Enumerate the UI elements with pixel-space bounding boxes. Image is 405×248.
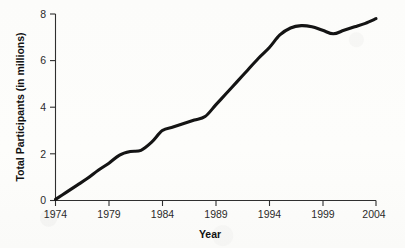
y-tick-label-8: 8: [40, 8, 46, 20]
y-axis-ticks: [50, 14, 56, 201]
x-axis-title: Year: [199, 228, 221, 240]
y-tick-label-0: 0: [40, 194, 46, 206]
x-tick-label-1979: 1979: [97, 208, 121, 220]
x-tick-label-1989: 1989: [204, 208, 228, 220]
y-tick-label-2: 2: [40, 148, 46, 160]
y-axis-tick-labels: 0 2 4 6 8: [40, 8, 46, 206]
x-tick-label-1999: 1999: [311, 208, 335, 220]
chart-page: 0 2 4 6 8 1974 1979 1984 1989 1994 1999 …: [0, 0, 405, 248]
x-axis-tick-labels: 1974 1979 1984 1989 1994 1999 2004: [44, 208, 386, 220]
x-tick-label-1984: 1984: [151, 208, 175, 220]
y-tick-label-4: 4: [40, 101, 46, 113]
x-tick-label-1994: 1994: [258, 208, 282, 220]
y-tick-label-6: 6: [40, 54, 46, 66]
y-axis-title: Total Participants (in millions): [14, 32, 26, 181]
x-axis-ticks: [56, 201, 377, 207]
x-tick-label-2004: 2004: [362, 208, 386, 220]
line-chart: 0 2 4 6 8 1974 1979 1984 1989 1994 1999 …: [0, 0, 405, 248]
x-tick-label-1974: 1974: [44, 208, 68, 220]
data-series-line: [56, 19, 377, 200]
